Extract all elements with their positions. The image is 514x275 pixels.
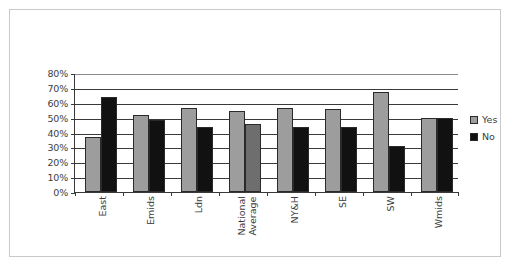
legend-swatch-yes bbox=[470, 116, 478, 124]
bar-yes bbox=[421, 118, 437, 192]
x-axis-category-label: NY&H bbox=[290, 196, 301, 223]
x-axis-category-label: NationalAverage bbox=[237, 196, 258, 236]
bar-group bbox=[363, 74, 411, 192]
bar-no bbox=[389, 146, 405, 192]
chart-legend: YesNo bbox=[470, 114, 514, 148]
legend-item: Yes bbox=[470, 114, 514, 125]
bar-yes bbox=[85, 137, 101, 192]
y-axis-tick-label: 20% bbox=[47, 158, 68, 168]
chart-outer-frame: 80%70%60%50%40%30%20%10%0% EastEmidsLdnN… bbox=[9, 9, 501, 257]
x-axis-category-label: SW bbox=[386, 196, 397, 211]
y-axis-tick-label: 40% bbox=[47, 129, 68, 139]
plot-area bbox=[74, 74, 458, 193]
bars-layer bbox=[75, 74, 458, 192]
x-axis-category-label: Ldn bbox=[194, 196, 205, 213]
legend-label: Yes bbox=[482, 115, 497, 125]
bar-no bbox=[197, 127, 213, 192]
bar-no bbox=[341, 127, 357, 192]
y-axis: 80%70%60%50%40%30%20%10%0% bbox=[34, 66, 72, 201]
y-axis-tick-label: 10% bbox=[47, 173, 68, 183]
bar-group bbox=[315, 74, 363, 192]
y-axis-tick-label: 80% bbox=[47, 69, 68, 79]
bar-yes bbox=[229, 111, 245, 192]
bar-group bbox=[411, 74, 459, 192]
y-axis-tick-label: 50% bbox=[47, 114, 68, 124]
bar-group bbox=[219, 74, 267, 192]
x-axis-category-label: SE bbox=[338, 196, 349, 208]
bar-no bbox=[245, 124, 261, 192]
bar-group bbox=[75, 74, 123, 192]
x-axis-category-label: Emids bbox=[146, 196, 157, 225]
x-axis-category-label: East bbox=[98, 196, 109, 217]
bar-yes bbox=[277, 108, 293, 192]
y-axis-tick-label: 70% bbox=[47, 84, 68, 94]
bar-yes bbox=[181, 108, 197, 192]
y-axis-tick-label: 30% bbox=[47, 143, 68, 153]
legend-label: No bbox=[482, 132, 495, 142]
legend-item: No bbox=[470, 131, 514, 142]
y-axis-tick-label: 60% bbox=[47, 99, 68, 109]
legend-swatch-no bbox=[470, 133, 478, 141]
bar-no bbox=[437, 118, 453, 192]
bar-group bbox=[171, 74, 219, 192]
bar-group bbox=[123, 74, 171, 192]
bar-yes bbox=[133, 115, 149, 192]
x-axis-tick-mark bbox=[458, 192, 459, 196]
y-axis-tick-label: 0% bbox=[53, 188, 68, 198]
bar-no bbox=[101, 97, 117, 192]
bar-yes bbox=[325, 109, 341, 192]
bar-chart-figure: 80%70%60%50%40%30%20%10%0% EastEmidsLdnN… bbox=[0, 0, 514, 275]
bar-yes bbox=[373, 92, 389, 192]
bar-no bbox=[149, 120, 165, 192]
x-axis: EastEmidsLdnNationalAverageNY&HSESWWmids bbox=[74, 196, 458, 275]
bar-group bbox=[267, 74, 315, 192]
bar-no bbox=[293, 127, 309, 192]
x-axis-category-label: Wmids bbox=[434, 196, 445, 228]
